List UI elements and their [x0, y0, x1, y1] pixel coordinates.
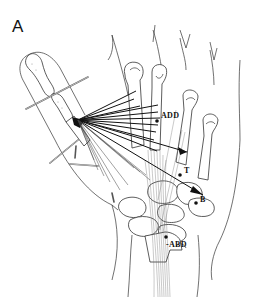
label-add: ADD	[161, 111, 179, 120]
b-point	[194, 201, 198, 205]
t-point	[178, 173, 182, 177]
abd-point	[164, 235, 168, 239]
label-t: T	[184, 166, 190, 175]
finger-bones	[124, 62, 218, 180]
thumb-bones	[26, 54, 90, 146]
add-point	[155, 119, 159, 123]
hand-diagram	[0, 0, 255, 297]
label-abd: -ABD	[166, 240, 187, 249]
label-b: B	[200, 195, 206, 204]
